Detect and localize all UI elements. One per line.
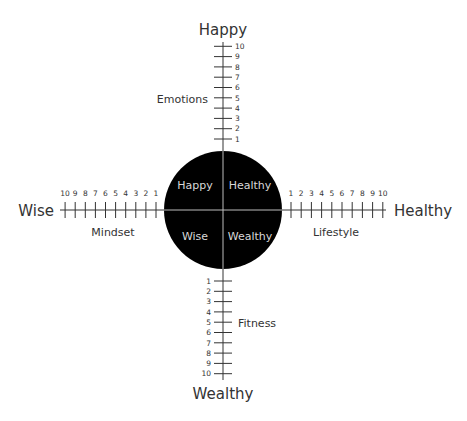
tick-label: 8 [206,349,211,358]
tick-label: 1 [235,135,240,144]
tick-label: 8 [83,189,88,198]
tick-label: 2 [206,287,211,296]
tick-label: 3 [133,189,138,198]
tick-label: 7 [235,73,240,82]
tick-label: 1 [206,277,211,286]
mindset-scale: 12345678910 [60,189,158,218]
quadrant-top-right-label: Healthy [229,179,272,192]
lifestyle-scale: 12345678910 [289,189,388,218]
tick-label: 9 [370,189,375,198]
tick-label: 10 [201,369,211,378]
tick-label: 7 [93,189,98,198]
tick-label: 10 [378,189,388,198]
tick-label: 1 [154,189,159,198]
tick-label: 6 [103,189,108,198]
tick-label: 6 [340,189,345,198]
axis-name-emotions: Emotions [157,93,208,106]
tick-label: 8 [235,63,240,72]
tick-label: 5 [329,189,334,198]
tick-label: 4 [319,189,324,198]
tick-label: 5 [113,189,118,198]
fitness-scale: 12345678910 [201,277,232,379]
pole-bottom-label: Wealthy [193,385,254,403]
tick-label: 7 [206,339,211,348]
axis-name-lifestyle: Lifestyle [313,226,359,239]
tick-label: 3 [235,114,240,123]
tick-label: 3 [309,189,314,198]
tick-label: 9 [206,359,211,368]
tick-label: 6 [235,83,240,92]
pole-left-label: Wise [18,202,54,220]
tick-label: 8 [360,189,365,198]
tick-label: 6 [206,328,211,337]
tick-label: 1 [289,189,294,198]
tick-label: 2 [299,189,304,198]
pole-top-label: Happy [199,21,248,39]
axis-name-fitness: Fitness [238,317,276,330]
tick-label: 2 [144,189,149,198]
tick-label: 9 [235,52,240,61]
tick-label: 10 [235,42,245,51]
tick-label: 4 [206,308,211,317]
axis-name-mindset: Mindset [91,226,135,239]
quadrant-top-left-label: Happy [177,179,213,192]
quadrant-bottom-right-label: Wealthy [228,230,273,243]
quadrant-bottom-left-label: Wise [182,230,208,243]
tick-label: 4 [123,189,128,198]
tick-label: 10 [60,189,70,198]
tick-label: 2 [235,124,240,133]
tick-label: 4 [235,104,240,113]
balance-diagram: 12345678910 12345678910 12345678910 1234… [0,0,467,421]
emotions-scale: 12345678910 [214,42,245,144]
pole-right-label: Healthy [394,202,452,220]
tick-label: 7 [350,189,355,198]
tick-label: 5 [206,318,211,327]
tick-label: 9 [73,189,78,198]
tick-label: 3 [206,297,211,306]
tick-label: 5 [235,94,240,103]
